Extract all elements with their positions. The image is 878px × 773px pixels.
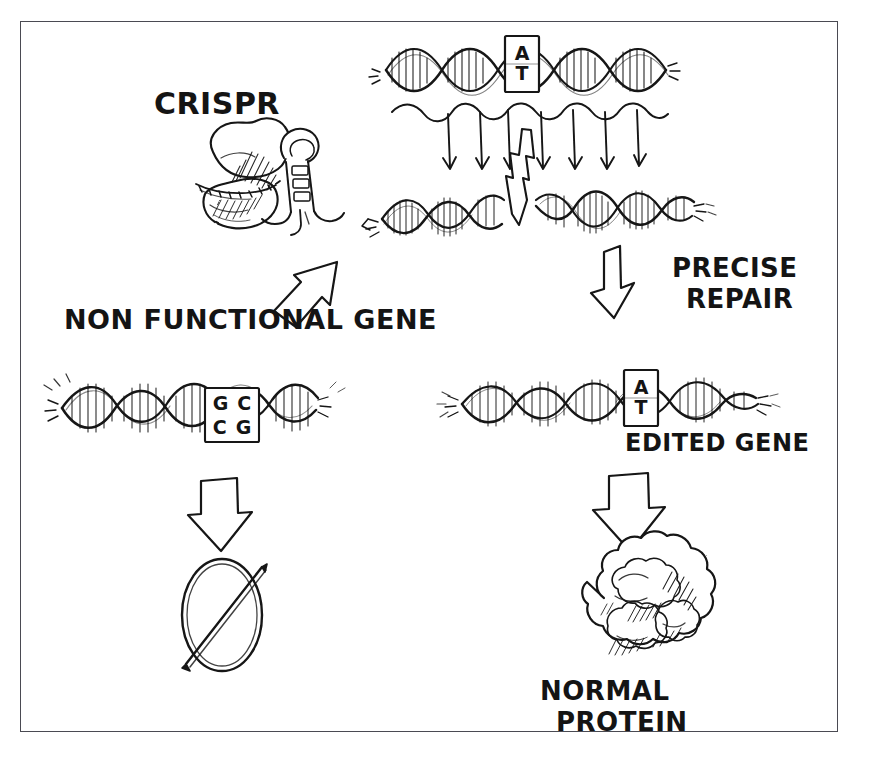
label-precise-repair: PRECISE REPAIR: [672, 253, 798, 314]
edited-dna-helix: [437, 378, 780, 426]
label-crispr: CRISPR: [154, 86, 280, 121]
base-box-edited-at-letters: A T: [624, 370, 658, 426]
guide-arrows-bracket: [392, 103, 668, 121]
mutant-dna-helix: [44, 374, 345, 432]
diagram-artwork: [0, 0, 878, 773]
base-letter-g-bottomright: G: [236, 416, 252, 438]
cas9-protein-blob: [196, 118, 290, 228]
label-normal-protein-line2: PROTEIN: [556, 707, 688, 738]
label-precise-repair-line1: PRECISE: [672, 253, 798, 283]
label-crispr-text: CRISPR: [154, 86, 280, 121]
base-letter-g-topleft: G: [213, 392, 229, 414]
base-box-mutant-letters: G C C G: [205, 388, 259, 442]
base-letter-c-bottomleft: C: [213, 416, 227, 438]
normal-protein-blob: [582, 531, 715, 655]
label-non-functional-gene: NON FUNCTIONAL GENE: [64, 304, 437, 336]
arrow-mutant-to-null: [188, 478, 252, 551]
base-letter-t-bottom-edited: T: [635, 398, 648, 418]
label-normal-protein-line1: NORMAL: [540, 676, 669, 706]
label-edited-gene-text: EDITED GENE: [625, 429, 809, 457]
cut-dna-helix: [362, 191, 716, 237]
base-box-target-at-letters: A T: [505, 36, 539, 92]
arrow-precise-repair: [591, 246, 634, 318]
label-precise-repair-line2: REPAIR: [686, 284, 798, 315]
null-symbol: [182, 559, 267, 671]
cut-symbol-lightning: [506, 129, 534, 225]
base-letter-a-top: A: [515, 44, 530, 64]
diagram-canvas: CRISPR NON FUNCTIONAL GENE PRECISE REPAI…: [0, 0, 878, 773]
label-normal-protein: NORMAL PROTEIN: [540, 676, 688, 737]
label-edited-gene: EDITED GENE: [625, 429, 809, 457]
base-letter-t-bottom: T: [516, 64, 529, 84]
base-letter-c-topright: C: [237, 392, 251, 414]
label-non-functional-gene-text: NON FUNCTIONAL GENE: [64, 304, 437, 335]
base-letter-a-top-edited: A: [634, 378, 649, 398]
